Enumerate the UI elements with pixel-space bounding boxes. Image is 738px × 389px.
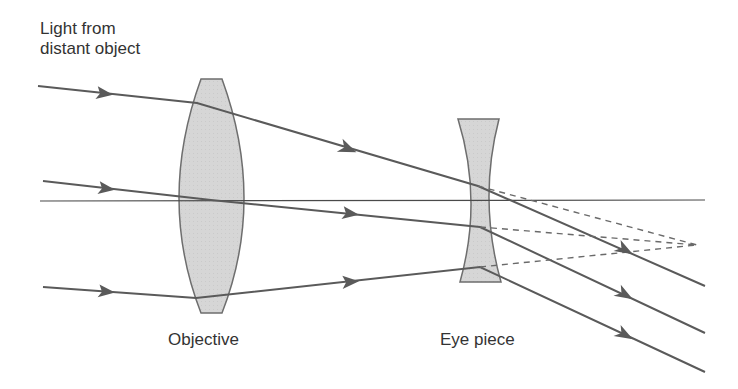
source-label-line2: distant object — [40, 39, 140, 59]
source-label: Light from distant object — [40, 19, 140, 59]
arrow-icon — [614, 324, 637, 344]
ray-2 — [43, 181, 705, 333]
eyepiece-label: Eye piece — [440, 330, 515, 350]
virtual-ray-3 — [480, 245, 697, 267]
objective-label: Objective — [168, 330, 239, 350]
ray-3 — [43, 267, 705, 372]
arrow-icon — [337, 138, 359, 157]
ray-1 — [38, 86, 705, 286]
virtual-ray-1 — [478, 186, 697, 245]
arrow-icon — [613, 284, 636, 304]
source-label-line1: Light from — [40, 19, 140, 39]
arrow-icon — [614, 239, 637, 259]
optical-axis — [40, 200, 705, 201]
